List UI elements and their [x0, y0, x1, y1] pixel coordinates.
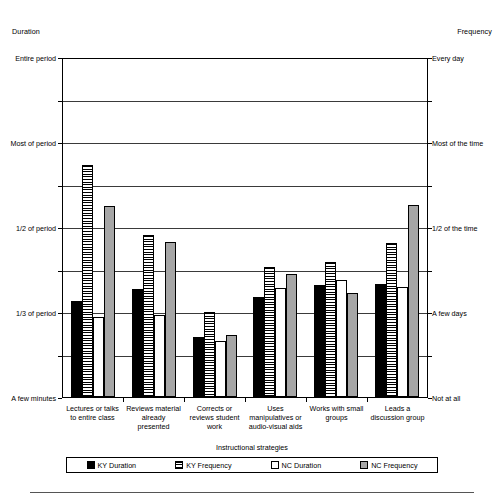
x-axis-tick: [123, 398, 124, 402]
x-axis-label: Corrects orreviews studentwork: [182, 404, 248, 432]
bar-kyd: [132, 289, 143, 397]
bar-kyd: [71, 301, 82, 397]
bar-kyd: [253, 297, 264, 397]
legend-swatch-icon: [87, 461, 95, 469]
x-axis-tick: [184, 398, 185, 402]
bar-kyd: [314, 285, 325, 397]
bar-ncd: [397, 287, 408, 397]
y-axis-tick: [58, 101, 62, 102]
x-axis-title: Instructional strategies: [0, 443, 504, 452]
y-axis-label-right: 1/2 of the time: [432, 224, 502, 233]
bar-ncd: [154, 315, 165, 397]
bar-group: [306, 59, 367, 397]
y-axis-label-left: Most of period: [0, 139, 56, 148]
x-axis-tick: [245, 398, 246, 402]
x-axis-label: Leads adiscussion group: [365, 404, 431, 422]
bar-group: [124, 59, 185, 397]
y-axis-tick: [58, 143, 62, 144]
legend-item[interactable]: KY Duration: [87, 461, 137, 470]
legend-label: KY Frequency: [186, 461, 231, 470]
bar-ncd: [215, 341, 226, 397]
bar-ncd: [93, 317, 104, 397]
legend-item[interactable]: NC Duration: [271, 461, 322, 470]
bar-kyd: [375, 284, 386, 397]
y-axis-label-left: Entire period: [0, 54, 56, 63]
bar-ncf: [226, 335, 237, 397]
x-axis-tick: [367, 398, 368, 402]
bar-group: [366, 59, 427, 397]
y-axis-tick: [58, 271, 62, 272]
y-axis-tick: [428, 356, 432, 357]
bar-ncf: [347, 293, 358, 397]
bar-ncd: [336, 280, 347, 397]
y-axis-tick: [58, 356, 62, 357]
y-axis-tick: [428, 186, 432, 187]
bar-kyd: [193, 337, 204, 397]
y-axis-label-right: Every day: [432, 54, 502, 63]
bar-group: [245, 59, 306, 397]
x-axis-label: Reviews materialalreadypresented: [121, 404, 187, 432]
legend-label: NC Frequency: [371, 461, 417, 470]
bar-ncf: [165, 242, 176, 397]
footer-rule: [30, 492, 474, 493]
y-axis-label-left: 1/2 of period: [0, 224, 56, 233]
legend-item[interactable]: NC Frequency: [360, 461, 417, 470]
y-axis-label-right: Most of the time: [432, 139, 502, 148]
y-axis-tick: [58, 398, 62, 399]
y-axis-tick: [58, 313, 62, 314]
chart-legend: KY DurationKY FrequencyNC DurationNC Fre…: [66, 457, 438, 473]
x-axis-label: Usesmanipulatives oraudio-visual aids: [243, 404, 309, 432]
bar-ncf: [104, 206, 115, 397]
bar-group: [184, 59, 245, 397]
y-axis-tick: [58, 58, 62, 59]
legend-label: KY Duration: [98, 461, 137, 470]
y-axis-tick: [58, 228, 62, 229]
legend-swatch-icon: [271, 461, 279, 469]
x-axis-label: Works with smallgroups: [304, 404, 370, 422]
chart-page: Duration Frequency A few minutes1/3 of p…: [0, 0, 504, 504]
y-axis-tick: [428, 271, 432, 272]
y-axis-tick: [428, 101, 432, 102]
x-axis-tick: [306, 398, 307, 402]
y-axis-label-right: Not at all: [432, 394, 502, 403]
bar-kyf: [264, 267, 275, 397]
x-axis-label: Lectures or talksto entire class: [60, 404, 126, 422]
bar-kyf: [82, 165, 93, 397]
legend-swatch-icon: [360, 461, 368, 469]
y-axis-tick: [58, 186, 62, 187]
legend-swatch-icon: [175, 461, 183, 469]
legend-item[interactable]: KY Frequency: [175, 461, 231, 470]
legend-label: NC Duration: [282, 461, 322, 470]
bar-kyf: [204, 312, 215, 397]
bar-kyf: [386, 243, 397, 397]
y-axis-label-left: 1/3 of period: [0, 309, 56, 318]
y-axis-label-right: A few days: [432, 309, 502, 318]
bar-groups: [63, 59, 427, 397]
bar-kyf: [325, 262, 336, 397]
bar-kyf: [143, 235, 154, 397]
bar-group: [63, 59, 124, 397]
bar-ncd: [275, 288, 286, 397]
bar-ncf: [408, 205, 419, 397]
y-axis-label-left: A few minutes: [0, 394, 56, 403]
bar-ncf: [286, 274, 297, 397]
